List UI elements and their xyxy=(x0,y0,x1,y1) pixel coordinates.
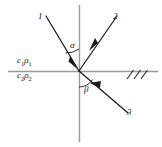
medium-lower-rho-subscript: 2 xyxy=(29,75,32,82)
ray-3-label: 3 xyxy=(127,108,132,117)
medium-upper-label: c1ρ1 xyxy=(17,56,32,67)
angle-alpha-label: α xyxy=(70,41,75,50)
ray-2-label: 2 xyxy=(113,12,118,21)
ray-1-label: 1 xyxy=(38,12,43,21)
medium-lower-label: c2ρ2 xyxy=(17,71,32,82)
reflected-ray-2 xyxy=(79,16,117,71)
angle-beta-label: β xyxy=(84,85,88,94)
incident-ray-arrowhead-icon xyxy=(69,57,79,70)
medium-upper-rho-subscript: 1 xyxy=(29,60,32,67)
figure-container: 1 2 3 α β c1ρ1 c2ρ2 xyxy=(0,0,162,147)
